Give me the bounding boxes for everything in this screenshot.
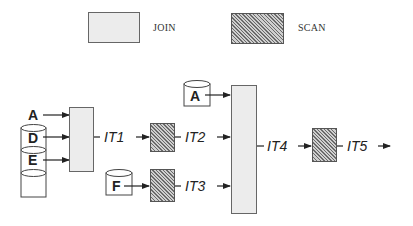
diagram-connectors	[0, 0, 413, 226]
relation-f-label: F	[112, 178, 121, 194]
scan-node-3	[312, 128, 337, 162]
join-node-1	[69, 107, 94, 172]
label-it4: IT4	[267, 139, 287, 153]
scan-node-2	[150, 169, 175, 202]
join-node-2	[231, 85, 257, 214]
label-it2: IT2	[185, 130, 205, 144]
label-it1: IT1	[104, 130, 124, 144]
relation-d-label: D	[28, 130, 38, 146]
relation-e-label: E	[28, 152, 37, 168]
relation-a-stack-label: A	[28, 107, 38, 123]
label-it5: IT5	[347, 139, 367, 153]
label-it3: IT3	[185, 179, 205, 193]
scan-node-1	[150, 123, 175, 152]
relation-a-label: A	[190, 88, 200, 104]
